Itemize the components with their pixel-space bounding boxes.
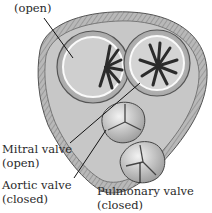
tricuspid-valve	[57, 31, 129, 103]
pulmonary-name: Pulmonary valve	[97, 184, 194, 198]
tricuspid-state: (open)	[14, 1, 51, 15]
pulmonary-state: (closed)	[97, 198, 194, 212]
mitral-valve	[124, 30, 190, 96]
aortic-name: Aortic valve	[2, 178, 71, 192]
aortic-state: (closed)	[2, 192, 71, 206]
pulmonary-label: Pulmonary valve (closed)	[97, 184, 194, 212]
mitral-state: (open)	[2, 156, 72, 170]
aortic-valve	[102, 102, 145, 143]
tricuspid-label: (open)	[14, 1, 51, 15]
mitral-name: Mitral valve	[2, 142, 72, 156]
mitral-label: Mitral valve (open)	[2, 142, 72, 170]
aortic-label: Aortic valve (closed)	[2, 178, 71, 206]
